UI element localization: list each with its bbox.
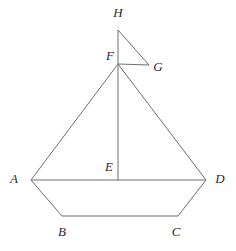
vertex-label-B: B bbox=[58, 224, 66, 239]
sailboat-diagram: A B C D E F G H bbox=[0, 0, 236, 251]
vertex-label-F: F bbox=[105, 48, 115, 63]
vertex-label-C: C bbox=[172, 224, 181, 239]
vertex-label-A: A bbox=[9, 171, 18, 186]
hull-side-CD bbox=[178, 180, 206, 216]
vertex-label-E: E bbox=[104, 159, 113, 174]
vertex-label-H: H bbox=[112, 5, 123, 20]
flag-edge-HG bbox=[118, 30, 149, 65]
vertex-label-D: D bbox=[214, 171, 225, 186]
hull-side-AB bbox=[31, 180, 62, 216]
vertex-label-G: G bbox=[153, 59, 163, 74]
sail-edge-FD bbox=[118, 64, 206, 180]
figure-canvas: A B C D E F G H bbox=[0, 0, 236, 251]
flag-edge-GF bbox=[118, 64, 149, 65]
